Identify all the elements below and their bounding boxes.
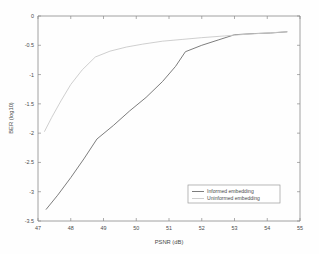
x-tick-label: 48	[68, 225, 74, 231]
x-tick-label: 49	[101, 225, 107, 231]
y-tick-label: 0	[31, 13, 34, 19]
ber-psnr-line-chart: 474849505152535455 0-0.5-1-1.5-2-2.5-3-3…	[0, 0, 319, 254]
y-tick-label: -2.5	[25, 159, 34, 165]
y-tick-label: -3.5	[25, 218, 34, 224]
y-tick-label: -1.5	[25, 101, 34, 107]
x-tick-label: 53	[232, 225, 238, 231]
x-tick-label: 50	[133, 225, 139, 231]
y-tick-label: -3	[29, 189, 34, 195]
legend-label-uninformed: Uninformed embedding	[207, 195, 260, 201]
x-axis-title: PSNR (dB)	[155, 239, 184, 245]
x-tick-label: 52	[199, 225, 205, 231]
y-tick-label: -2	[29, 130, 34, 136]
chart-legend: Informed embedding Uninformed embedding	[188, 185, 280, 203]
chart-background	[0, 0, 319, 254]
x-tick-label: 54	[264, 225, 270, 231]
legend-label-informed: Informed embedding	[207, 188, 254, 194]
x-tick-label: 55	[297, 225, 303, 231]
y-axis-title: BER (log10)	[8, 102, 14, 134]
figure-canvas: 474849505152535455 0-0.5-1-1.5-2-2.5-3-3…	[0, 0, 319, 254]
x-tick-label: 51	[166, 225, 172, 231]
y-tick-label: -1	[29, 72, 34, 78]
x-tick-label: 47	[35, 225, 41, 231]
y-tick-label: -0.5	[25, 42, 34, 48]
